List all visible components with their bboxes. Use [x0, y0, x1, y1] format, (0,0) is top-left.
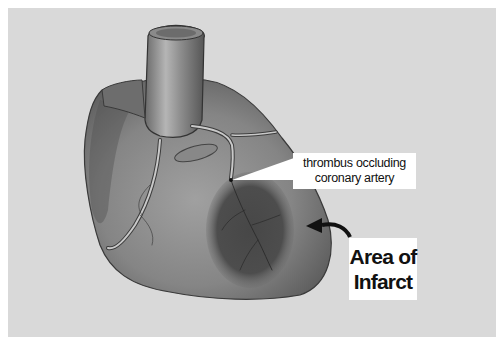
thrombus-label-line2: coronary artery	[293, 171, 416, 186]
infarct-label-line2: Infarct	[349, 269, 417, 294]
heart-illustration	[0, 0, 502, 343]
infarct-area	[206, 172, 294, 288]
thrombus-label-line1: thrombus occluding	[293, 156, 416, 171]
thrombus-label: thrombus occluding coronary artery	[293, 153, 416, 189]
infarct-label-line1: Area of	[349, 244, 417, 269]
aorta	[145, 25, 204, 137]
infarct-label: Area of Infarct	[349, 238, 417, 300]
